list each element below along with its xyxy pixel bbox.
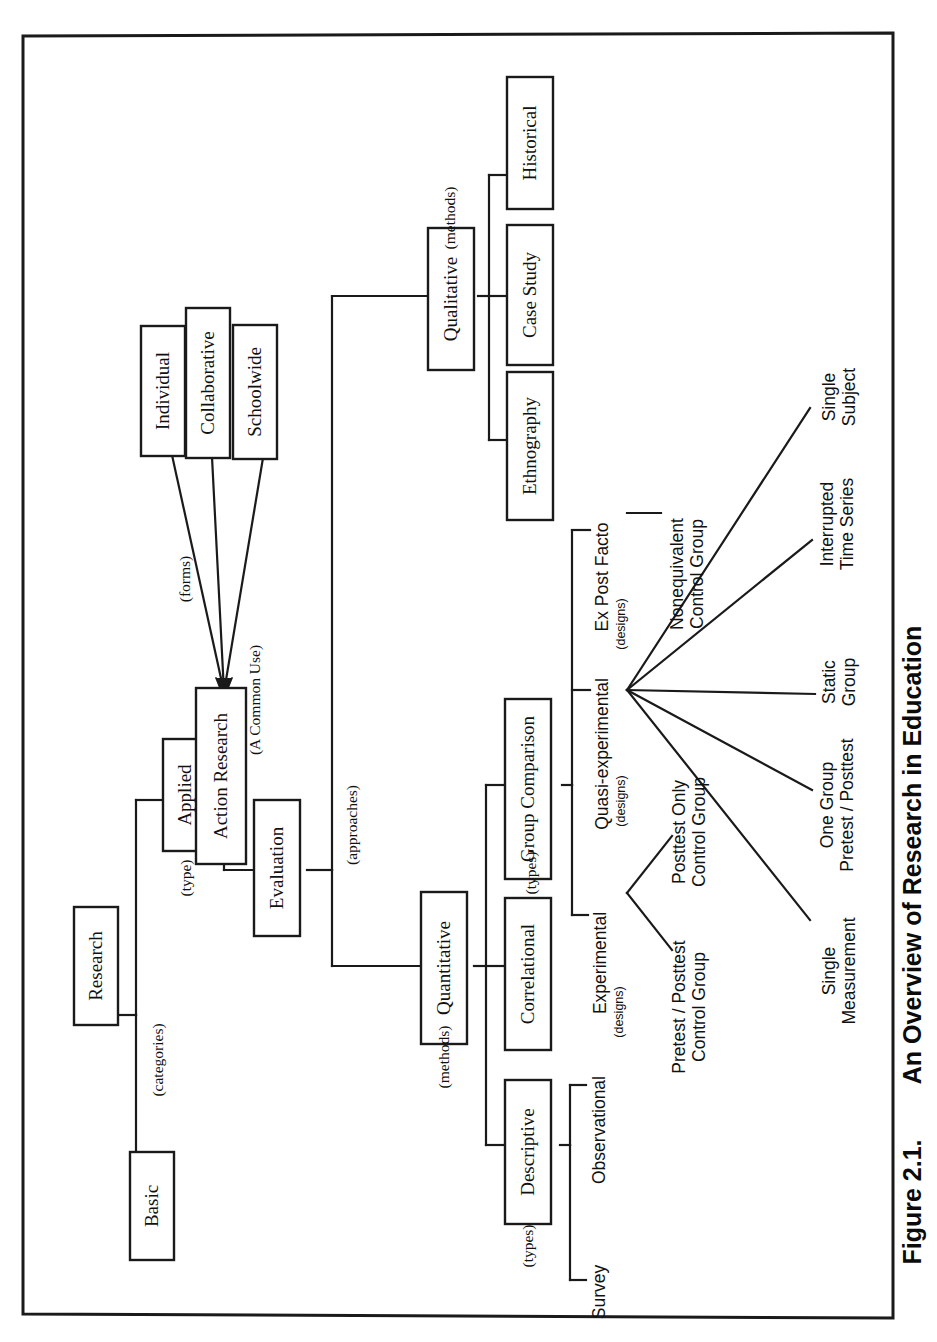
node-box-ethnography bbox=[507, 372, 553, 520]
diagram-canvas bbox=[0, 0, 937, 1342]
node-box-correlational bbox=[505, 898, 551, 1050]
edge-quasi-to-static-group bbox=[627, 690, 815, 694]
node-box-research bbox=[74, 907, 118, 1025]
node-box-quantitative bbox=[421, 892, 467, 1044]
edge-form-collaborative bbox=[212, 457, 224, 692]
edge-exp-to-posttest-only bbox=[627, 893, 672, 950]
node-box-group-comparison bbox=[505, 699, 551, 879]
node-box-qualitative bbox=[428, 228, 474, 370]
figure-page: Research Basic Applied Action Research E… bbox=[0, 0, 937, 1342]
edge-quasi-to-single-subject bbox=[627, 408, 810, 690]
figure-frame bbox=[23, 33, 893, 1318]
edge-quasi-to-interrupted-time-series bbox=[627, 540, 812, 690]
node-box-descriptive bbox=[505, 1080, 551, 1224]
node-box-case-study bbox=[507, 225, 553, 365]
node-box-collaborative bbox=[186, 308, 230, 458]
edge-form-individual bbox=[172, 455, 224, 692]
edge-quasi-to-single-measurement bbox=[627, 690, 810, 920]
figure-caption-number: Figure 2.1. bbox=[898, 1139, 927, 1264]
node-box-schoolwide bbox=[233, 325, 277, 459]
node-box-evaluation bbox=[254, 800, 300, 936]
edge-quasi-to-one-group-pretest-posttest bbox=[627, 690, 812, 790]
node-box-historical bbox=[507, 77, 553, 209]
node-box-basic bbox=[130, 1152, 174, 1260]
node-box-individual bbox=[141, 326, 185, 456]
edge-form-schoolwide bbox=[224, 458, 263, 692]
edge-exp-to-pretest-posttest bbox=[627, 836, 672, 893]
node-box-action-research bbox=[196, 688, 246, 864]
figure-caption-title: An Overview of Research in Education bbox=[898, 626, 927, 1084]
